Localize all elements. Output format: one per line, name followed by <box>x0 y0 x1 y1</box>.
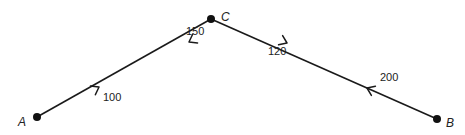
edge-c-b-label: 120 <box>268 45 286 57</box>
path-diagram: A C B 100 150 120 200 <box>0 0 465 135</box>
node-a <box>33 113 41 121</box>
node-a-label: A <box>17 115 26 129</box>
node-b <box>433 115 441 123</box>
edge-b-c-label: 200 <box>380 71 398 83</box>
edge-c-a-label: 150 <box>186 25 204 37</box>
node-c-label: C <box>221 10 230 24</box>
segment-a-c <box>37 19 211 117</box>
node-c <box>207 15 215 23</box>
edge-a-c-label: 100 <box>103 91 121 103</box>
node-b-label: B <box>446 116 454 130</box>
segment-c-b <box>211 19 437 119</box>
